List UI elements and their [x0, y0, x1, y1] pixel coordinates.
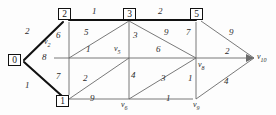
weight-1-v2: 7	[56, 72, 61, 81]
weight-1-v5: 2	[83, 74, 88, 83]
weight-3-v5: 3	[133, 31, 138, 40]
node-0[interactable]: 0	[8, 54, 21, 66]
weight-2-v2: 6	[56, 31, 61, 40]
node-3[interactable]: 3	[123, 8, 136, 20]
vertex-label-v6: v6	[121, 101, 128, 111]
weight-v5-v8: 6	[156, 45, 161, 54]
vertex-label-v2: v2	[44, 38, 51, 48]
weight-v6-v8: 3	[161, 74, 166, 83]
weight-v6-v9: 1	[166, 94, 171, 103]
weight-v8-v9: 1	[188, 74, 193, 83]
weight-5-v8: 7	[186, 28, 191, 37]
node-2[interactable]: 2	[58, 8, 71, 20]
vertex-label-v8: v8	[198, 61, 205, 71]
vertex-label-v5: v5	[114, 45, 121, 55]
vertex-label-v10: v10	[257, 53, 267, 63]
weight-0-2: 2	[25, 27, 30, 36]
vertex-label-v9: v9	[193, 101, 200, 111]
weight-v2-v5: 1	[86, 45, 91, 54]
node-1[interactable]: 1	[56, 95, 69, 107]
weight-v9-v10: 4	[224, 77, 229, 86]
edge-1-v5	[69, 58, 129, 99]
weight-3-v8: 9	[164, 28, 169, 37]
weight-3-5: 2	[158, 7, 163, 16]
weight-0-1: 1	[25, 81, 30, 90]
weight-0-v2: 8	[42, 53, 47, 62]
node-5[interactable]: 5	[190, 8, 203, 20]
weight-v2-3: 5	[84, 28, 89, 37]
weight-2-3: 1	[92, 7, 97, 16]
graph-diagram: 0 2 3 5 1 v2 v5 v6 v8 v9 v10 2 1 6 1 2 5…	[0, 0, 276, 115]
weight-1-v6: 9	[90, 94, 95, 103]
weight-5-v10: 9	[229, 28, 234, 37]
weight-v5-v6: 4	[131, 71, 136, 80]
weight-v8-v10: 2	[225, 47, 230, 56]
